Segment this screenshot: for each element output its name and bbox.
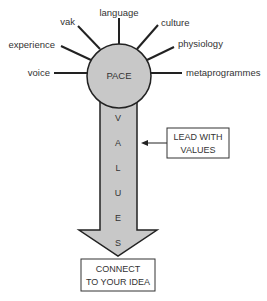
spoke-vak — [78, 26, 100, 49]
arrow-letter: S — [115, 238, 121, 248]
pace-label: PACE — [106, 70, 131, 81]
arrow-letter: E — [115, 213, 121, 223]
spoke-physiology — [147, 47, 174, 60]
lead-with-values-line1: LEAD WITH — [173, 132, 222, 142]
arrow-letter: A — [115, 138, 121, 148]
spoke-label-experience: experience — [9, 39, 55, 50]
spoke-label-physiology: physiology — [178, 38, 223, 49]
values-arrow — [79, 100, 157, 256]
arrow-letter: L — [115, 163, 120, 173]
spoke-label-voice: voice — [28, 67, 50, 78]
spoke-culture — [137, 25, 158, 49]
arrow-letter: V — [115, 113, 121, 123]
spoke-label-culture: culture — [161, 17, 190, 28]
spoke-label-vak: vak — [60, 16, 75, 27]
spoke-experience — [61, 46, 91, 60]
connect-idea-line1: CONNECT — [96, 264, 141, 274]
arrow-letter: U — [115, 188, 122, 198]
spoke-label-metaprogrammes: metaprogrammes — [186, 67, 261, 78]
pointer-arrowhead-icon — [141, 140, 148, 146]
spoke-label-language: language — [99, 7, 138, 18]
lead-with-values-line2: VALUES — [181, 145, 216, 155]
connect-idea-line2: TO YOUR IDEA — [86, 277, 150, 287]
pace-diagram: voice experience vak language culture ph… — [0, 0, 267, 301]
